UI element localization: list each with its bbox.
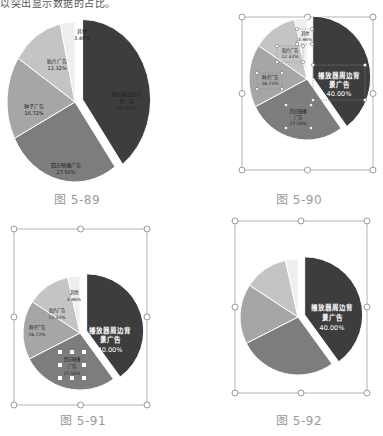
label-handle[interactable] [309, 126, 312, 129]
label-handle[interactable] [71, 377, 74, 380]
figure-5-92: 播放器周边背景广告40.00% 图 5-92 [225, 215, 383, 436]
label-frame-pct: 27.50% [63, 371, 81, 376]
label-handle[interactable] [295, 42, 298, 45]
resize-handle[interactable] [239, 14, 245, 20]
label-frame-pct: 27.50% [56, 169, 75, 175]
resize-handle[interactable] [364, 218, 370, 224]
resize-handle[interactable] [144, 402, 150, 408]
caption-5-89: 图 5-89 [54, 190, 100, 207]
label-frame-pct: 27.50% [289, 121, 307, 126]
label-handle[interactable] [255, 87, 258, 90]
resize-handle[interactable] [232, 304, 238, 310]
label-handle[interactable] [83, 351, 86, 354]
label-seed-pct: 16.72% [28, 332, 46, 337]
label-handle[interactable] [295, 27, 298, 30]
pie-chart-5-90[interactable]: 播放器周边背景广告40.00%四方映播广告27.50%种子广告16.72%贴片广… [225, 0, 383, 215]
label-seed-name: 种子广告 [262, 74, 279, 81]
label-player-pct: 40.00% [98, 346, 123, 354]
label-handle[interactable] [309, 103, 312, 106]
label-sticker-pct: 12.32% [281, 54, 299, 59]
label-player-line2: 景广告 [329, 80, 350, 89]
figure-5-90: 播放器周边背景广告40.00%四方映播广告27.50%种子广告16.72%贴片广… [225, 0, 383, 215]
label-handle[interactable] [275, 44, 278, 47]
label-handle[interactable] [301, 60, 304, 63]
label-handle[interactable] [255, 71, 258, 74]
label-handle[interactable] [310, 42, 313, 45]
label-sticker-pct: 12.32% [47, 65, 66, 71]
label-sticker-name: 贴片广告 [49, 307, 66, 314]
label-player-line2: 景广告 [322, 313, 343, 322]
label-handle[interactable] [59, 364, 62, 367]
resize-handle[interactable] [298, 218, 304, 224]
label-other-name: 其他 [70, 289, 79, 296]
resize-handle[interactable] [370, 14, 376, 20]
caption-5-91: 图 5-91 [60, 411, 106, 428]
label-other-pct: 3.46% [74, 35, 90, 41]
label-other-pct: 3.46% [298, 37, 313, 42]
resize-handle[interactable] [232, 218, 238, 224]
label-sticker-name: 贴片广告 [282, 47, 299, 54]
resize-handle[interactable] [144, 226, 150, 232]
resize-handle[interactable] [11, 402, 17, 408]
resize-handle[interactable] [11, 226, 17, 232]
pie-chart-5-91[interactable]: 播放器周边背景广告40.00%四方映播广告27.50%种子广告16.72%贴片广… [0, 215, 190, 436]
pie-chart-5-89[interactable]: 播放器周边背景广告40.00%四方映播广告27.50%种子广告16.72%贴片广… [0, 0, 190, 215]
caption-5-92: 图 5-92 [276, 411, 322, 428]
label-other-name: 其他 [77, 28, 87, 35]
label-player-pct: 40.00% [320, 324, 345, 332]
resize-handle[interactable] [370, 91, 376, 97]
label-player-line1: 播放器周边背 [311, 303, 353, 312]
label-handle[interactable] [275, 60, 278, 63]
label-handle[interactable] [280, 87, 283, 90]
label-handle[interactable] [363, 98, 366, 101]
caption-5-90: 图 5-90 [276, 190, 322, 207]
label-player-line2: 景广告 [119, 98, 134, 105]
label-seed-pct: 16.72% [261, 81, 279, 86]
label-handle[interactable] [310, 27, 313, 30]
label-seed-name: 种子广告 [24, 103, 44, 110]
label-handle[interactable] [301, 44, 304, 47]
label-player-line1: 播放器周边背 [111, 91, 141, 98]
label-handle[interactable] [280, 71, 283, 74]
label-handle[interactable] [59, 351, 62, 354]
label-frame-name: 四方映播广告 [51, 162, 81, 169]
label-player-line1: 播放器周边背 [89, 326, 131, 335]
label-handle[interactable] [83, 377, 86, 380]
label-player-line1: 播放器周边背 [318, 71, 360, 80]
pie-chart-5-92[interactable]: 播放器周边背景广告40.00% [225, 215, 383, 436]
label-handle[interactable] [83, 364, 86, 367]
resize-handle[interactable] [144, 314, 150, 320]
label-handle[interactable] [311, 98, 314, 101]
label-frame-line2: 广告 [294, 114, 303, 121]
label-player-line2: 景广告 [100, 335, 121, 344]
label-seed-pct: 16.72% [24, 110, 43, 116]
resize-handle[interactable] [305, 167, 311, 173]
label-other-pct: 3.46% [67, 297, 82, 302]
resize-handle[interactable] [239, 167, 245, 173]
label-handle[interactable] [59, 377, 62, 380]
label-frame-line2: 广告 [68, 363, 77, 370]
resize-handle[interactable] [78, 226, 84, 232]
label-player-pct: 40.00% [116, 105, 135, 111]
figure-5-89: 播放器周边背景广告40.00%四方映播广告27.50%种子广告16.72%贴片广… [0, 0, 190, 215]
label-handle[interactable] [284, 126, 287, 129]
resize-handle[interactable] [11, 314, 17, 320]
resize-handle[interactable] [364, 390, 370, 396]
label-seed-name: 种子广告 [29, 324, 46, 331]
resize-handle[interactable] [232, 390, 238, 396]
resize-handle[interactable] [298, 390, 304, 396]
label-handle[interactable] [71, 351, 74, 354]
label-other-name: 其他 [301, 30, 310, 37]
resize-handle[interactable] [364, 304, 370, 310]
resize-handle[interactable] [370, 167, 376, 173]
label-sticker-pct: 12.32% [48, 315, 66, 320]
label-handle[interactable] [284, 103, 287, 106]
resize-handle[interactable] [78, 402, 84, 408]
resize-handle[interactable] [239, 91, 245, 97]
label-sticker-name: 贴片广告 [47, 58, 67, 65]
label-handle[interactable] [363, 63, 366, 66]
label-frame-line1: 四方映播 [290, 108, 307, 115]
label-handle[interactable] [311, 63, 314, 66]
figure-5-91: 播放器周边背景广告40.00%四方映播广告27.50%种子广告16.72%贴片广… [0, 215, 190, 436]
label-frame-line1: 四方映播 [64, 356, 81, 363]
